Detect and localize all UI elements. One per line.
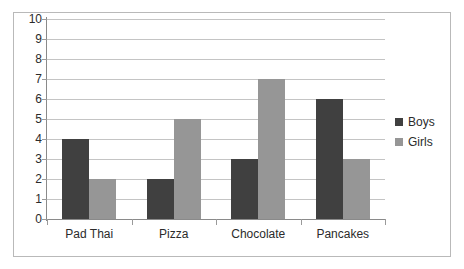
category-tick xyxy=(47,219,48,225)
y-axis-tick-mark xyxy=(42,79,47,80)
bar-boys xyxy=(316,99,343,219)
chart-legend: Boys Girls xyxy=(395,112,451,152)
y-axis-tick-label: 10 xyxy=(20,13,42,25)
category-tick xyxy=(385,219,386,225)
bar-girls xyxy=(89,179,116,219)
bar-chart-figure: 012345678910 Pad ThaiPizzaChocolatePanca… xyxy=(0,0,464,269)
category-tick xyxy=(301,219,302,225)
category-tick xyxy=(132,219,133,225)
y-axis-tick-mark xyxy=(42,139,47,140)
y-axis-tick-mark xyxy=(42,159,47,160)
category-label: Chocolate xyxy=(216,227,301,241)
category-label: Pancakes xyxy=(301,227,386,241)
bar-boys xyxy=(147,179,174,219)
y-axis-tick-label: 5 xyxy=(20,113,42,125)
category-tick xyxy=(216,219,217,225)
y-axis-tick-label: 6 xyxy=(20,93,42,105)
category-label: Pizza xyxy=(132,227,217,241)
bar-group xyxy=(316,19,370,219)
category-label: Pad Thai xyxy=(47,227,132,241)
y-axis-tick-labels: 012345678910 xyxy=(18,0,42,269)
bar-girls xyxy=(258,79,285,219)
bar-boys xyxy=(62,139,89,219)
y-axis-tick-label: 1 xyxy=(20,193,42,205)
legend-label-girls: Girls xyxy=(408,136,433,149)
y-axis-tick-label: 7 xyxy=(20,73,42,85)
y-axis-tick-mark xyxy=(42,19,47,20)
bar-girls xyxy=(174,119,201,219)
y-axis-tick-label: 9 xyxy=(20,33,42,45)
y-axis-tick-mark xyxy=(42,99,47,100)
legend-label-boys: Boys xyxy=(408,116,435,129)
bar-group xyxy=(147,19,201,219)
y-axis-tick-label: 8 xyxy=(20,53,42,65)
bar-group xyxy=(231,19,285,219)
plot-area xyxy=(47,19,385,219)
bar-group xyxy=(62,19,116,219)
y-axis-tick-label: 3 xyxy=(20,153,42,165)
y-axis-tick-label: 4 xyxy=(20,133,42,145)
legend-swatch-boys-icon xyxy=(395,118,403,126)
x-axis-category-labels: Pad ThaiPizzaChocolatePancakes xyxy=(47,227,385,245)
y-axis-tick-mark xyxy=(42,59,47,60)
legend-item-boys: Boys xyxy=(395,112,451,132)
bar-boys xyxy=(231,159,258,219)
y-axis-tick-label: 0 xyxy=(20,213,42,225)
y-axis-tick-label: 2 xyxy=(20,173,42,185)
bar-girls xyxy=(343,159,370,219)
legend-item-girls: Girls xyxy=(395,132,451,152)
y-axis-tick-mark xyxy=(42,39,47,40)
legend-swatch-girls-icon xyxy=(395,138,403,146)
y-axis-tick-mark xyxy=(42,119,47,120)
y-axis-tick-mark xyxy=(42,199,47,200)
y-axis-tick-mark xyxy=(42,179,47,180)
